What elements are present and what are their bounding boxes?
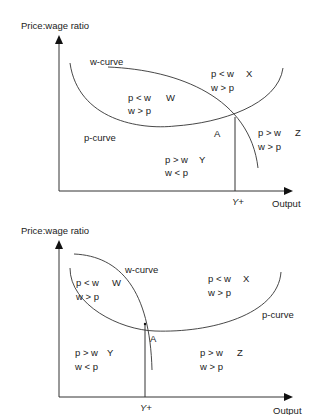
region-z: p > w Z w > p	[257, 127, 301, 152]
region-z-line2: w > p	[257, 141, 281, 152]
point-a-label: A	[214, 128, 221, 139]
region-y-line1: p > w	[75, 347, 98, 358]
x-axis-label: Output	[272, 198, 301, 209]
y-axis-label: Price:wage ratio	[21, 225, 89, 236]
region-y-letter: Y	[107, 347, 114, 358]
region-x: p < w X w > p	[207, 273, 250, 298]
region-x-line2: w > p	[207, 287, 231, 298]
region-y-line1: p > w	[165, 154, 188, 165]
region-z: p > w Z w > p	[199, 347, 243, 372]
y-plus-label: Y+	[140, 402, 152, 413]
region-z-line1: p > w	[258, 127, 281, 138]
w-curve-label: w-curve	[89, 56, 123, 67]
region-w: p < w W w > p	[127, 92, 175, 116]
region-x-letter: X	[243, 273, 250, 284]
region-x-letter: X	[246, 68, 253, 79]
region-y-line2: w < p	[164, 167, 188, 178]
region-w-line2: w > p	[75, 291, 99, 302]
p-curve	[70, 268, 281, 331]
region-x-line1: p < w	[208, 273, 231, 284]
y-plus-label: Y+	[232, 196, 244, 207]
diagram-top: Price:wage ratio Output w-curve p-curve …	[21, 20, 301, 209]
y-axis-arrow-icon	[55, 35, 63, 44]
region-w: p < w W w > p	[75, 277, 121, 302]
region-y: p > w Y w < p	[74, 347, 114, 372]
diagram-bottom: Price:wage ratio Output w-curve p-curve …	[21, 225, 302, 415]
diagram-canvas: Price:wage ratio Output w-curve p-curve …	[0, 0, 323, 415]
region-w-line2: w > p	[127, 105, 151, 116]
region-y: p > w Y w < p	[164, 154, 206, 178]
x-axis-arrow-icon	[284, 187, 293, 195]
region-z-line2: w > p	[199, 361, 223, 372]
region-w-letter: W	[112, 277, 121, 288]
region-z-line1: p > w	[200, 347, 223, 358]
region-x-line1: p < w	[211, 68, 234, 79]
region-x: p < w X w > p	[210, 68, 253, 93]
y-axis-arrow-icon	[55, 240, 63, 249]
region-y-line2: w < p	[74, 361, 98, 372]
region-w-letter: W	[166, 92, 175, 103]
region-y-letter: Y	[199, 154, 206, 165]
x-axis-arrow-icon	[284, 393, 293, 401]
region-w-line1: p < w	[128, 92, 151, 103]
region-z-letter: Z	[295, 127, 301, 138]
x-axis-label: Output	[273, 405, 302, 415]
w-curve-label: w-curve	[124, 264, 158, 275]
point-a-marker	[144, 323, 146, 325]
region-x-line2: w > p	[210, 82, 234, 93]
point-a-label: A	[150, 333, 157, 344]
region-z-letter: Z	[237, 347, 243, 358]
p-curve-label: p-curve	[84, 132, 116, 143]
region-w-line1: p < w	[76, 277, 99, 288]
p-curve-label: p-curve	[262, 309, 294, 320]
y-axis-label: Price:wage ratio	[21, 20, 89, 31]
